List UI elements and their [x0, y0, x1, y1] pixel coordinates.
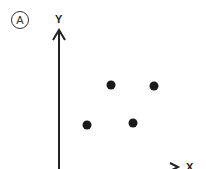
data-point: [107, 81, 116, 90]
data-points: [83, 81, 159, 130]
scatter-plot: [0, 0, 206, 169]
data-point: [129, 119, 138, 128]
data-point: [150, 82, 159, 91]
data-point: [83, 121, 92, 130]
x-axis-arrowhead-icon: [170, 163, 178, 169]
